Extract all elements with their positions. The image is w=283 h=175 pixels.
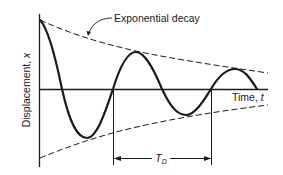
damped-period-label: TD	[155, 152, 167, 165]
exponential-decay-label: Exponential decay	[114, 12, 201, 24]
lower-envelope	[40, 105, 268, 158]
displacement-axis-label: Displacement, x	[20, 52, 32, 127]
leader-arrowhead-icon	[87, 31, 92, 36]
upper-envelope	[40, 20, 268, 73]
damped-vibration-diagram: Exponential decay Time, t Displacement, …	[0, 0, 283, 175]
time-axis-label: Time, t	[232, 91, 265, 103]
annotation-leader-arrow	[89, 18, 112, 33]
damped-oscillation-curve	[40, 20, 257, 138]
arrowhead-right-icon	[204, 156, 211, 161]
arrowhead-left-icon	[114, 156, 121, 161]
